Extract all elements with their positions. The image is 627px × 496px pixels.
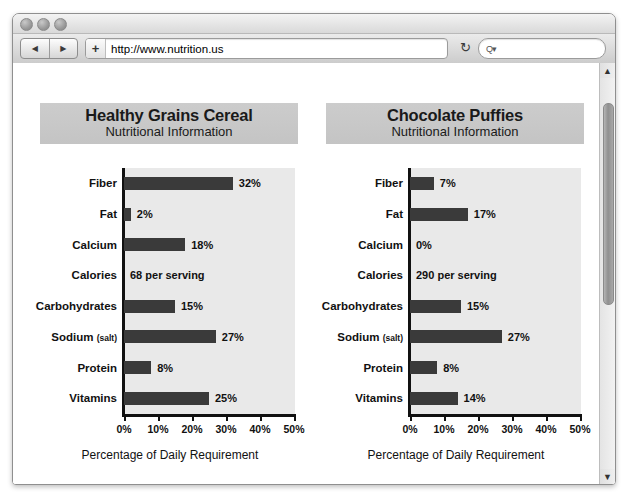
bar [410,392,458,405]
bar-value-label: 8% [157,362,173,374]
x-tick-label: 50% [283,423,304,435]
bar-row: Carbohydrates15% [27,291,313,322]
bar-row: Protein8% [313,352,599,383]
bar-row: Sodium (salt)27% [27,322,313,353]
bar-value-label: 0% [416,239,432,251]
bar-row-label: Fat [27,208,117,220]
bar-row-label: Calories [313,269,403,281]
bar [124,238,185,251]
chart-subtitle: Nutritional Information [105,125,232,140]
plot-area-left: Fiber32%Fat2%Calcium18%Calories68 per se… [27,168,313,418]
bar-row-label: Carbohydrates [313,300,403,312]
bar-row: Protein8% [27,352,313,383]
x-tick [192,414,194,421]
url-text[interactable]: http://www.nutrition.us [106,43,224,55]
bar-value-label: 15% [467,300,489,312]
chart-healthy-grains-cereal: Healthy Grains Cereal Nutritional Inform… [27,63,317,484]
reload-icon[interactable]: ↻ [456,38,475,57]
bar-row-label: Carbohydrates [27,300,117,312]
bar-row: Calories290 per serving [313,260,599,291]
x-axis-title: Percentage of Daily Requirement [313,448,599,462]
x-tick [158,414,160,421]
bar-row-label: Fiber [27,177,117,189]
x-tick [444,414,446,421]
chart-header-left: Healthy Grains Cereal Nutritional Inform… [40,103,298,144]
x-axis [122,414,295,421]
x-tick-label: 50% [569,423,590,435]
bar-value-label: 17% [474,208,496,220]
bar-row-label: Fat [313,208,403,220]
bar-value-label: 7% [440,177,456,189]
search-icon: Q▾ [479,44,496,54]
bar [124,361,151,374]
x-tick [294,414,296,421]
scroll-up-icon[interactable]: ▲ [600,63,615,78]
bar-value-label: 18% [191,239,213,251]
bar [124,208,131,221]
zoom-window-button[interactable] [54,18,67,31]
bar-row-label: Vitamins [27,392,117,404]
bar-row-label: Sodium (salt) [313,331,403,343]
x-tick-label: 0% [402,423,417,435]
scrollbar-thumb[interactable] [603,103,614,305]
x-tick-labels: 0%10%20%30%40%50% [103,423,313,437]
bar-value-label: 25% [215,392,237,404]
back-icon[interactable]: ◀ [21,39,50,58]
web-page: Healthy Grains Cereal Nutritional Inform… [13,63,600,484]
add-bookmark-icon[interactable]: + [86,39,106,58]
window-title-bar[interactable] [13,14,615,34]
x-tick [260,414,262,421]
bar-row-label: Fiber [313,177,403,189]
bar [124,330,216,343]
close-window-button[interactable] [20,18,33,31]
bar-value-label: 32% [239,177,261,189]
bar-row: Sodium (salt)27% [313,322,599,353]
bar-row-label: Protein [313,362,403,374]
bar-value-label: 290 per serving [416,269,497,281]
bar [410,361,437,374]
bar-row: Vitamins25% [27,383,313,414]
bar-row-label: Calcium [313,239,403,251]
bar-row: Vitamins14% [313,383,599,414]
address-bar[interactable]: + http://www.nutrition.us [85,38,448,59]
bar-row: Fat2% [27,199,313,230]
bar [410,330,502,343]
bar-value-label: 15% [181,300,203,312]
x-axis-line [122,414,295,417]
scroll-down-icon[interactable]: ▼ [600,469,615,484]
x-tick [580,414,582,421]
vertical-scrollbar[interactable]: ▲ ▼ [599,63,615,484]
bar [124,300,175,313]
bar-row-label: Vitamins [313,392,403,404]
navigation-buttons: ◀ ▶ [20,38,78,59]
browser-window: ◀ ▶ + http://www.nutrition.us ↻ Q▾ Healt… [12,13,616,485]
bar-row: Fiber7% [313,168,599,199]
forward-icon[interactable]: ▶ [50,39,78,58]
x-tick [478,414,480,421]
x-tick-label: 40% [535,423,556,435]
bar-value-label: 68 per serving [130,269,205,281]
x-tick-label: 0% [116,423,131,435]
x-tick-label: 10% [433,423,454,435]
x-tick [410,414,412,421]
bar [410,177,434,190]
x-tick-labels: 0%10%20%30%40%50% [389,423,599,437]
bar [124,177,233,190]
minimize-window-button[interactable] [37,18,50,31]
x-tick [512,414,514,421]
x-axis [408,414,581,421]
x-axis-title: Percentage of Daily Requirement [27,448,313,462]
bar-value-label: 2% [137,208,153,220]
chart-title: Healthy Grains Cereal [85,107,252,124]
x-tick-label: 20% [181,423,202,435]
chart-title: Chocolate Puffies [387,107,523,124]
bar-rows: Fiber32%Fat2%Calcium18%Calories68 per se… [27,168,313,414]
chart-subtitle: Nutritional Information [391,125,518,140]
bar-row: Carbohydrates15% [313,291,599,322]
search-input[interactable]: Q▾ [478,38,606,59]
bar [410,300,461,313]
x-tick-label: 30% [501,423,522,435]
bar-row-label: Calories [27,269,117,281]
bar-row: Calcium18% [27,229,313,260]
bar-rows: Fiber7%Fat17%Calcium0%Calories290 per se… [313,168,599,414]
